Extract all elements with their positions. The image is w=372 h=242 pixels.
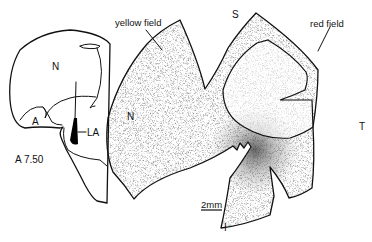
- label-red-field: red field: [310, 18, 344, 29]
- label-temporal: T: [359, 121, 365, 132]
- section-ventricle-curve: [90, 48, 102, 108]
- lower-tract: [64, 128, 108, 166]
- label-area: A: [32, 116, 39, 127]
- label-coordinate: A 7.50: [15, 154, 44, 165]
- section-outline: [10, 30, 110, 203]
- label-inferior: I: [224, 222, 227, 233]
- red-field-leader: [318, 27, 330, 51]
- scale-bar-label: 2mm: [201, 199, 222, 210]
- label-lesion: LA: [87, 127, 100, 138]
- brain-section-drawing: N A LA A 7.50: [10, 30, 110, 203]
- label-yellow-field: yellow field: [115, 17, 161, 28]
- label-nucleus: N: [52, 61, 59, 72]
- label-nasal: N: [127, 111, 134, 122]
- label-superior: S: [232, 9, 239, 20]
- midline-stub: [75, 82, 76, 120]
- figure-canvas: N A LA A 7.50 yellow field red field S N…: [0, 0, 372, 242]
- lesion-mark: [70, 118, 78, 145]
- retina-map: yellow field red field S N T I 2mm: [100, 9, 365, 235]
